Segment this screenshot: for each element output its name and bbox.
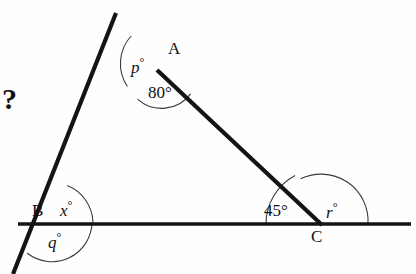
angle-label-r-text: r	[326, 203, 333, 222]
angle-label-r: r°	[326, 201, 337, 221]
angle-label-80: 80°	[148, 84, 172, 101]
angle-label-p-text: p	[131, 58, 140, 77]
degree-symbol-x: °	[68, 198, 73, 212]
angle-label-p: p°	[131, 56, 144, 76]
angle-label-x-text: x	[60, 201, 68, 220]
degree-symbol-p: °	[140, 55, 145, 69]
arc-angle-p	[120, 36, 131, 87]
diagram-canvas: ? A B C p° 80° x° q° 45° r°	[0, 0, 416, 274]
vertex-label-c: C	[311, 228, 322, 245]
degree-symbol-q: °	[57, 230, 62, 244]
angle-label-q-text: q	[48, 233, 57, 252]
angle-label-q: q°	[48, 231, 61, 251]
vertex-label-b: B	[32, 202, 43, 219]
angle-label-x: x°	[60, 199, 72, 219]
geometry-figure	[0, 0, 416, 274]
question-mark: ?	[2, 84, 17, 114]
angle-label-45: 45°	[264, 202, 288, 219]
segment-line-A-to-C	[157, 70, 322, 225]
vertex-label-a: A	[168, 40, 180, 57]
segment-line-through-A-and-B	[13, 13, 116, 274]
degree-symbol-r: °	[333, 200, 338, 214]
